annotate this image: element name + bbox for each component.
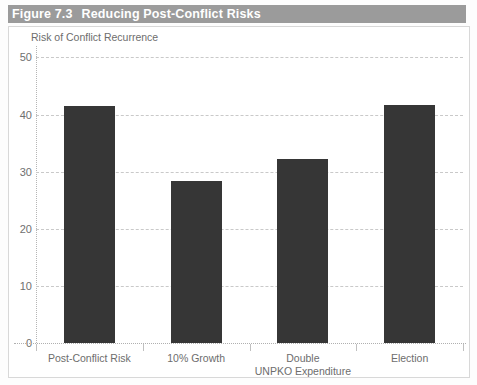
- plot-area: [36, 46, 463, 343]
- y-axis-title: Risk of Conflict Recurrence: [31, 31, 158, 43]
- figure-title: Figure 7.3Reducing Post-Conflict Risks: [8, 7, 261, 21]
- bar: [64, 106, 115, 343]
- bar: [171, 181, 222, 343]
- figure-title-text: Reducing Post-Conflict Risks: [82, 7, 261, 21]
- y-axis-tick-label: 30: [2, 166, 32, 178]
- x-axis-tick-label: Double UNPKO Expenditure: [250, 352, 357, 378]
- gridline: [36, 57, 463, 58]
- x-axis-tick-mark: [463, 344, 464, 351]
- x-axis-tick-label: Post-Conflict Risk: [36, 352, 143, 365]
- x-axis-baseline: [14, 343, 466, 344]
- y-axis-tick-label: 40: [2, 109, 32, 121]
- x-axis-tick-mark: [36, 344, 37, 351]
- x-axis-tick-label: 10% Growth: [143, 352, 250, 365]
- x-axis-tick-mark: [143, 344, 144, 351]
- y-axis-tick-label: 20: [2, 223, 32, 235]
- bar: [384, 105, 435, 343]
- figure-container: Figure 7.3Reducing Post-Conflict Risks R…: [0, 0, 477, 385]
- y-axis-tick-labels: 01020304050: [0, 0, 32, 385]
- bar: [277, 159, 328, 343]
- y-axis-tick-label: 50: [2, 51, 32, 63]
- figure-title-bar: Figure 7.3Reducing Post-Conflict Risks: [8, 5, 466, 23]
- y-axis-tick-label: 10: [2, 280, 32, 292]
- x-axis-tick-label: Election: [356, 352, 463, 365]
- x-axis-tick-mark: [250, 344, 251, 351]
- x-axis-tick-mark: [356, 344, 357, 351]
